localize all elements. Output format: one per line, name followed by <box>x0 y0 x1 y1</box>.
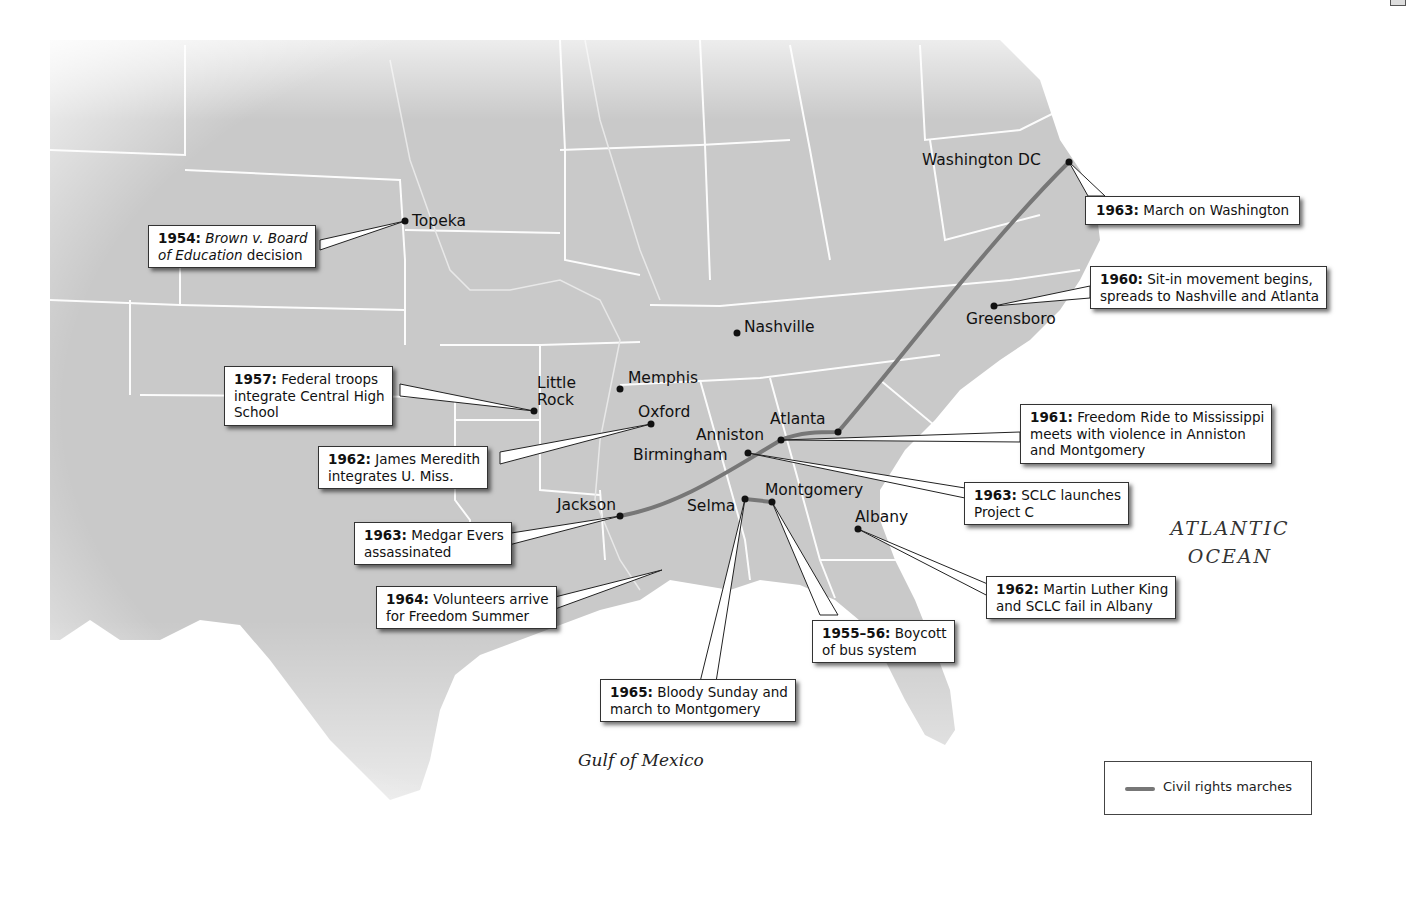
city-label-jackson: Jackson <box>557 497 616 514</box>
callout-1957-central-high: 1957: Federal troops integrate Central H… <box>224 366 393 426</box>
city-label-greensboro: Greensboro <box>966 311 1056 328</box>
callout-1963-project-c: 1963: SCLC launches Project C <box>964 482 1129 525</box>
city-label-oxford: Oxford <box>638 404 690 421</box>
map-legend: Civil rights marches <box>1104 761 1312 815</box>
city-label-nashville: Nashville <box>744 319 815 336</box>
corner-tab-icon <box>1390 0 1406 6</box>
city-label-atlanta: Atlanta <box>770 411 826 428</box>
city-label-topeka: Topeka <box>412 213 466 230</box>
legend-label-marches: Civil rights marches <box>1163 779 1292 794</box>
callout-1962-meredith: 1962: James Meredith integrates U. Miss. <box>318 446 488 489</box>
march-line-swatch <box>1125 787 1155 791</box>
city-label-birmingham: Birmingham <box>633 447 728 464</box>
callout-1955-bus-boycott: 1955–56: Boycott of bus system <box>812 620 955 663</box>
gulf-of-mexico-label: Gulf of Mexico <box>578 750 704 770</box>
callout-1963-medgar-evers: 1963: Medgar Evers assassinated <box>354 522 512 565</box>
callout-1965-bloody-sunday: 1965: Bloody Sunday and march to Montgom… <box>600 679 796 722</box>
city-label-little-rock-2: Rock <box>537 392 574 409</box>
city-label-montgomery: Montgomery <box>765 482 863 499</box>
callout-1962-albany: 1962: Martin Luther King and SCLC fail i… <box>986 576 1176 619</box>
city-label-anniston: Anniston <box>696 427 764 444</box>
city-label-albany: Albany <box>855 509 908 526</box>
callout-1954-brown-v-board: 1954: Brown v. Board of Education decisi… <box>148 225 316 268</box>
callout-1961-freedom-ride: 1961: Freedom Ride to Mississippi meets … <box>1020 404 1272 464</box>
city-label-little-rock-1: Little <box>537 375 576 392</box>
city-label-memphis: Memphis <box>628 370 698 387</box>
atlantic-ocean-label: ATLANTIC OCEAN <box>1150 514 1310 570</box>
city-label-washington-dc: Washington DC <box>922 152 1041 169</box>
callout-1964-freedom-summer: 1964: Volunteers arrive for Freedom Summ… <box>376 586 557 629</box>
callout-1963-march-on-washington: 1963: March on Washington <box>1085 196 1300 225</box>
city-label-selma: Selma <box>687 498 735 515</box>
callout-1960-sit-in: 1960: Sit-in movement begins, spreads to… <box>1090 266 1327 309</box>
